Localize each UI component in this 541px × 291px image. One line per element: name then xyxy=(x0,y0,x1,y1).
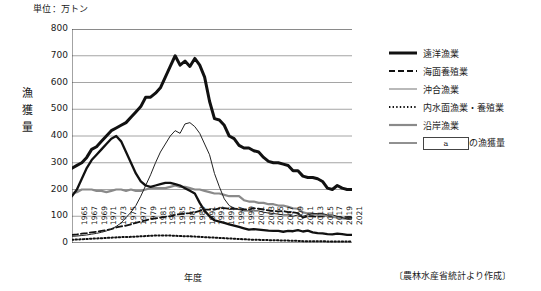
x-tick-label: 1967 xyxy=(90,206,99,246)
x-tick-label: 1981 xyxy=(159,206,168,246)
x-tick-label: 1989 xyxy=(198,206,207,246)
x-tick-label: 2021 xyxy=(355,206,364,246)
series-line xyxy=(72,56,352,190)
legend-label: 遠洋漁業 xyxy=(423,47,459,60)
unit-label: 単位：万トン xyxy=(33,2,89,15)
legend-line-swatch xyxy=(389,120,417,130)
y-tick-label: 700 xyxy=(38,50,68,60)
x-tick-label: 1979 xyxy=(149,206,158,246)
y-tick-label: 0 xyxy=(38,237,68,247)
legend-item[interactable]: aの漁獲量 xyxy=(389,134,539,152)
x-tick-label: 2013 xyxy=(316,206,325,246)
chart-legend: 遠洋漁業海面養殖業沖合漁業内水面漁業・養殖業沿岸漁業aの漁獲量 xyxy=(389,44,539,152)
legend-answer-box[interactable]: a xyxy=(423,137,469,150)
x-tick-label: 2009 xyxy=(296,206,305,246)
y-tick-label: 600 xyxy=(38,77,68,87)
legend-line-swatch xyxy=(389,84,417,94)
x-tick-label: 2001 xyxy=(257,206,266,246)
y-tick-label: 500 xyxy=(38,103,68,113)
x-tick-label: 1983 xyxy=(168,206,177,246)
x-tick-label: 1985 xyxy=(178,206,187,246)
x-tick-label: 2005 xyxy=(276,206,285,246)
legend-line-swatch xyxy=(389,48,417,58)
legend-item[interactable]: 沿岸漁業 xyxy=(389,116,539,134)
x-tick-label: 2019 xyxy=(345,206,354,246)
legend-line-swatch xyxy=(389,138,417,148)
x-tick-label: 2017 xyxy=(335,206,344,246)
x-tick-label: 2007 xyxy=(286,206,295,246)
y-tick-label: 100 xyxy=(38,210,68,220)
x-tick-label: 2015 xyxy=(326,206,335,246)
x-tick-label: 1987 xyxy=(188,206,197,246)
legend-line-swatch xyxy=(389,66,417,76)
x-tick-label: 1975 xyxy=(129,206,138,246)
legend-item[interactable]: 内水面漁業・養殖業 xyxy=(389,98,539,116)
x-tick-label: 1965 xyxy=(80,206,89,246)
legend-item[interactable]: 沖合漁業 xyxy=(389,80,539,98)
legend-label-suffix: の漁獲量 xyxy=(469,138,505,148)
x-tick-label: 2003 xyxy=(267,206,276,246)
legend-label: 沿岸漁業 xyxy=(423,119,459,132)
x-tick-label: 1995 xyxy=(227,206,236,246)
legend-label: 海面養殖業 xyxy=(423,65,468,78)
source-note: 〔農林水産省統計より作成〕 xyxy=(394,269,511,282)
legend-item[interactable]: 海面養殖業 xyxy=(389,62,539,80)
legend-line-swatch xyxy=(389,102,417,112)
y-tick-label: 800 xyxy=(38,23,68,33)
x-tick-label: 1973 xyxy=(119,206,128,246)
legend-label: aの漁獲量 xyxy=(423,136,505,150)
legend-item[interactable]: 遠洋漁業 xyxy=(389,44,539,62)
x-tick-label: 1997 xyxy=(237,206,246,246)
x-tick-label: 1993 xyxy=(217,206,226,246)
y-tick-label: 300 xyxy=(38,157,68,167)
x-tick-label: 1977 xyxy=(139,206,148,246)
x-tick-label: 1991 xyxy=(208,206,217,246)
y-tick-label: 400 xyxy=(38,130,68,140)
x-tick-label: 1969 xyxy=(100,206,109,246)
y-axis-title: 漁獲量 xyxy=(20,85,34,136)
x-axis-title: 年度 xyxy=(184,271,202,284)
legend-label: 内水面漁業・養殖業 xyxy=(423,101,504,114)
y-axis-title-text: 漁獲量 xyxy=(22,87,33,134)
x-tick-label: 1999 xyxy=(247,206,256,246)
y-axis-ticks: 0100200300400500600700800 xyxy=(38,29,68,243)
x-tick-label: 2011 xyxy=(306,206,315,246)
x-tick-label: 1971 xyxy=(109,206,118,246)
legend-label: 沖合漁業 xyxy=(423,83,459,96)
x-axis-ticks: 1965196719691971197319751977197919811983… xyxy=(72,246,358,286)
y-tick-label: 200 xyxy=(38,184,68,194)
